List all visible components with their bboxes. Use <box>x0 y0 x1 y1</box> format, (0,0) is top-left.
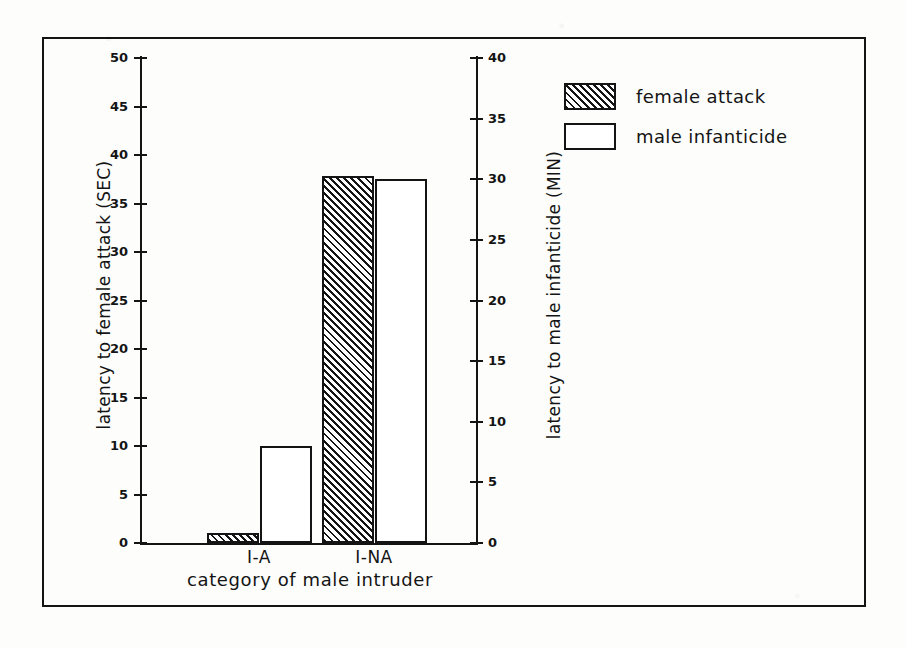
left-axis-tick <box>134 300 147 302</box>
right-axis-tick <box>470 57 483 59</box>
legend-swatch-hatched-icon <box>564 83 616 110</box>
right-axis-tick-label: 10 <box>488 415 522 428</box>
bar-i-a-female-attack <box>207 533 259 543</box>
bar-i-na-female-attack <box>322 176 374 543</box>
left-y-axis-title: latency to female attack (SEC) <box>94 85 114 505</box>
right-axis-tick-label: 30 <box>488 172 522 185</box>
scanned-page: 05101520253035404550 0510152025303540 I-… <box>0 0 906 648</box>
right-axis-tick <box>470 239 483 241</box>
left-axis-tick <box>134 57 147 59</box>
legend-label: male infanticide <box>636 126 787 147</box>
left-axis-tick-label: 0 <box>94 536 128 549</box>
right-axis-tick <box>470 481 483 483</box>
right-axis-tick-label: 15 <box>488 354 522 367</box>
legend-swatch-open-icon <box>564 123 616 150</box>
right-axis-tick-label: 25 <box>488 233 522 246</box>
left-axis-tick-label: 50 <box>94 51 128 64</box>
category-label: I-A <box>199 547 319 567</box>
right-axis-tick-label: 0 <box>488 536 522 549</box>
legend: female attack male infanticide <box>564 79 854 159</box>
right-axis-tick <box>470 178 483 180</box>
legend-entry-male-infanticide: male infanticide <box>564 119 854 153</box>
left-axis-tick <box>134 348 147 350</box>
category-label: I-NA <box>314 547 434 567</box>
bar-i-a-male-infanticide <box>260 446 312 543</box>
left-axis-tick <box>134 154 147 156</box>
left-axis-tick <box>134 251 147 253</box>
right-axis-tick-label: 40 <box>488 51 522 64</box>
x-axis-title: category of male intruder <box>100 569 520 590</box>
bar-i-na-male-infanticide <box>375 179 427 543</box>
right-y-axis-title: latency to male infanticide (MIN) <box>544 85 564 505</box>
right-axis-tick-label: 5 <box>488 475 522 488</box>
left-axis-tick <box>134 494 147 496</box>
right-axis-tick <box>470 118 483 120</box>
left-axis-tick <box>134 203 147 205</box>
left-axis-tick <box>134 397 147 399</box>
left-axis-tick <box>134 542 147 544</box>
legend-entry-female-attack: female attack <box>564 79 854 113</box>
figure-frame: 05101520253035404550 0510152025303540 I-… <box>42 37 866 607</box>
right-axis-tick <box>470 542 483 544</box>
x-axis-line <box>140 543 478 545</box>
left-axis-tick <box>134 106 147 108</box>
legend-label: female attack <box>636 86 765 107</box>
left-axis-tick <box>134 445 147 447</box>
right-axis-tick <box>470 421 483 423</box>
right-axis-tick <box>470 360 483 362</box>
right-axis-tick-label: 20 <box>488 294 522 307</box>
right-axis-tick <box>470 300 483 302</box>
right-axis-tick-label: 35 <box>488 112 522 125</box>
